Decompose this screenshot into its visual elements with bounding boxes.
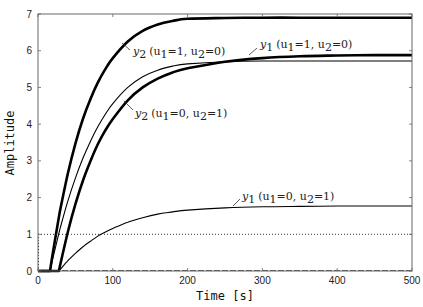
y-tick-label: 3 xyxy=(26,155,32,166)
x-tick-label: 0 xyxy=(35,275,41,286)
y-tick-label: 6 xyxy=(26,45,32,56)
x-tick-label: 500 xyxy=(404,275,421,286)
y-tick-label: 4 xyxy=(26,119,32,130)
x-tick-label: 200 xyxy=(179,275,196,286)
y-tick-label: 0 xyxy=(26,266,32,277)
y-tick-label: 7 xyxy=(26,9,32,20)
x-tick-label: 300 xyxy=(254,275,271,286)
y-tick-label: 2 xyxy=(26,192,32,203)
x-tick-label: 100 xyxy=(104,275,121,286)
x-axis-label: Time [s] xyxy=(196,289,254,303)
y-tick-label: 5 xyxy=(26,82,32,93)
x-tick-label: 400 xyxy=(329,275,346,286)
step-response-chart: 010020030040050001234567 Time [s] Amplit… xyxy=(0,0,423,307)
y-axis-label: Amplitude xyxy=(3,110,17,175)
y-tick-label: 1 xyxy=(26,229,32,240)
